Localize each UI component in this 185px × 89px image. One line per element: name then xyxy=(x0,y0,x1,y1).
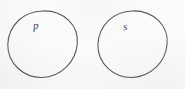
circle-s-outline xyxy=(98,11,167,78)
circle-s-label: s xyxy=(123,21,128,32)
circle-p-label: p xyxy=(33,20,39,31)
figure-canvas: p s xyxy=(0,0,185,89)
circles-drawing xyxy=(0,0,185,89)
circle-p-outline xyxy=(8,11,78,78)
